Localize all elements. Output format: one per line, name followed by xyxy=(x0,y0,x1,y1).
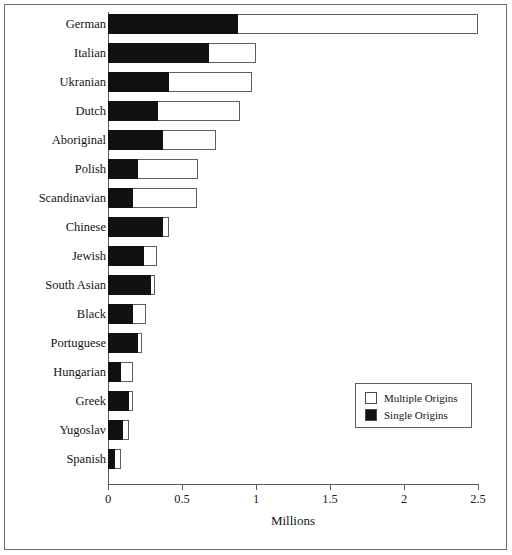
x-axis-title: Millions xyxy=(108,513,478,529)
bar-segment-single-origins xyxy=(108,333,138,353)
bar-segment-single-origins xyxy=(108,304,133,324)
bar-segment-single-origins xyxy=(108,275,151,295)
stacked-bar xyxy=(108,275,155,295)
legend-label-multiple-origins: Multiple Origins xyxy=(384,392,458,404)
bar-segment-single-origins xyxy=(108,14,238,34)
bar-segment-single-origins xyxy=(108,362,121,382)
bar-row: Italian xyxy=(0,43,512,63)
stacked-bar xyxy=(108,391,133,411)
bar-segment-single-origins xyxy=(108,449,115,469)
chart-figure: GermanItalianUkranianDutchAboriginalPoli… xyxy=(0,0,512,555)
bar-segment-single-origins xyxy=(108,246,144,266)
stacked-bar xyxy=(108,246,157,266)
x-axis-tick-mark xyxy=(478,484,479,490)
stacked-bar xyxy=(108,72,252,92)
category-label: Jewish xyxy=(72,249,106,264)
bar-row: Black xyxy=(0,304,512,324)
x-axis-tick-mark xyxy=(256,484,257,490)
bar-row: Ukranian xyxy=(0,72,512,92)
bar-segment-single-origins xyxy=(108,188,133,208)
stacked-bar xyxy=(108,304,146,324)
bar-row: Dutch xyxy=(0,101,512,121)
legend-item-single-origins: Single Origins xyxy=(365,408,448,422)
category-label: German xyxy=(66,17,106,32)
stacked-bar xyxy=(108,43,256,63)
bar-segment-single-origins xyxy=(108,101,158,121)
legend-item-multiple-origins: Multiple Origins xyxy=(365,391,458,405)
bar-row: Spanish xyxy=(0,449,512,469)
stacked-bar xyxy=(108,14,478,34)
x-axis-tick-label: 2 xyxy=(401,492,407,507)
plot-area: GermanItalianUkranianDutchAboriginalPoli… xyxy=(0,0,512,555)
bar-segment-single-origins xyxy=(108,217,163,237)
bar-segment-single-origins xyxy=(108,159,138,179)
x-axis-tick-label: 0.5 xyxy=(174,492,190,507)
x-axis-tick-label: 1 xyxy=(253,492,259,507)
category-label: Spanish xyxy=(66,452,106,467)
bar-segment-single-origins xyxy=(108,130,163,150)
bar-row: Portuguese xyxy=(0,333,512,353)
category-label: Black xyxy=(77,307,106,322)
category-label: Scandinavian xyxy=(39,191,106,206)
stacked-bar xyxy=(108,188,197,208)
category-label: Portuguese xyxy=(50,336,106,351)
stacked-bar xyxy=(108,159,198,179)
x-axis-tick-mark xyxy=(182,484,183,490)
stacked-bar xyxy=(108,217,169,237)
category-label: Hungarian xyxy=(53,365,106,380)
stacked-bar xyxy=(108,449,121,469)
stacked-bar xyxy=(108,362,133,382)
bar-row: Scandinavian xyxy=(0,188,512,208)
category-label: Dutch xyxy=(75,104,106,119)
category-label: Ukranian xyxy=(59,75,106,90)
bar-segment-single-origins xyxy=(108,43,209,63)
bar-segment-single-origins xyxy=(108,420,123,440)
bar-row: South Asian xyxy=(0,275,512,295)
category-label: Aboriginal xyxy=(52,133,106,148)
legend-label-single-origins: Single Origins xyxy=(384,409,448,421)
bar-row: Hungarian xyxy=(0,362,512,382)
bar-row: Chinese xyxy=(0,217,512,237)
stacked-bar xyxy=(108,333,142,353)
stacked-bar xyxy=(108,130,216,150)
category-label: Greek xyxy=(75,394,106,409)
legend-swatch-multiple-origins xyxy=(365,392,377,404)
x-axis-tick-label: 0 xyxy=(105,492,111,507)
bar-row: Aboriginal xyxy=(0,130,512,150)
bar-segment-single-origins xyxy=(108,72,169,92)
category-label: Chinese xyxy=(66,220,106,235)
category-label: Polish xyxy=(75,162,106,177)
x-axis-line xyxy=(108,484,478,485)
stacked-bar xyxy=(108,101,240,121)
bar-row: German xyxy=(0,14,512,34)
category-label: Yugoslav xyxy=(59,423,106,438)
legend-swatch-single-origins xyxy=(365,409,377,421)
category-label: South Asian xyxy=(45,278,106,293)
bar-row: Polish xyxy=(0,159,512,179)
chart-legend: Multiple Origins Single Origins xyxy=(355,383,472,428)
category-label: Italian xyxy=(74,46,106,61)
x-axis-tick-label: 2.5 xyxy=(470,492,486,507)
x-axis-tick-mark xyxy=(108,484,109,490)
bar-segment-single-origins xyxy=(108,391,129,411)
stacked-bar xyxy=(108,420,129,440)
x-axis-tick-mark xyxy=(404,484,405,490)
x-axis-tick-mark xyxy=(330,484,331,490)
x-axis-tick-label: 1.5 xyxy=(322,492,338,507)
bar-row: Jewish xyxy=(0,246,512,266)
